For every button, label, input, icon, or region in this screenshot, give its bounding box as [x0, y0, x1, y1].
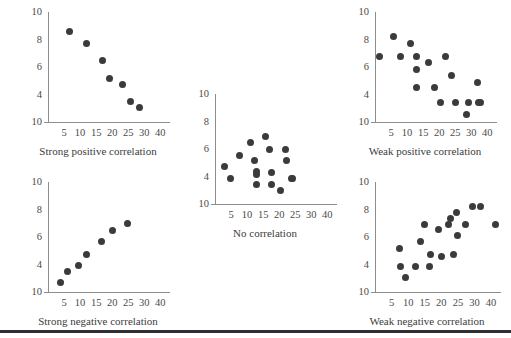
y-tick-label: 10 — [20, 117, 42, 128]
scatter-point — [425, 59, 432, 66]
scatter-point — [99, 57, 106, 64]
scatter-point — [469, 203, 476, 210]
x-tick-label: 40 — [149, 128, 171, 139]
y-tick-label: 6 — [187, 144, 209, 155]
scatter-point — [421, 221, 428, 228]
scatter-point — [64, 268, 71, 275]
scatter-plot-figure: 10864105101520253040Strong positive corr… — [0, 0, 511, 338]
scatter-point — [127, 98, 134, 105]
x-axis-line — [48, 122, 170, 123]
scatter-panel-strong-positive: 10864105101520253040Strong positive corr… — [18, 8, 200, 178]
scatter-point — [98, 238, 105, 245]
scatter-point — [407, 40, 414, 47]
y-tick-label: 6 — [20, 232, 42, 243]
panel-caption-weak-positive: Weak positive correlation — [347, 146, 503, 157]
scatter-point — [402, 274, 409, 281]
scatter-point — [75, 262, 82, 269]
x-axis-line — [48, 292, 170, 293]
y-tick-label: 10 — [347, 7, 369, 18]
y-tick-label: 6 — [347, 62, 369, 73]
scatter-point — [447, 215, 454, 222]
y-tick-label: 6 — [347, 232, 369, 243]
x-axis-line — [215, 204, 337, 205]
x-tick-label: 40 — [316, 210, 338, 221]
y-tick-label: 10 — [20, 177, 42, 188]
scatter-point — [136, 104, 143, 111]
scatter-panel-strong-negative: 10864105101520253040Strong negative corr… — [18, 178, 200, 338]
scatter-point — [442, 53, 449, 60]
panel-caption-no-correlation: No correlation — [187, 228, 343, 239]
y-tick-label: 4 — [347, 90, 369, 101]
scatter-point — [289, 175, 296, 182]
scatter-point — [251, 157, 258, 164]
y-tick-label: 4 — [347, 260, 369, 271]
bottom-divider-rule — [0, 330, 511, 333]
scatter-point — [253, 171, 260, 178]
origin-tick-mark — [371, 292, 375, 293]
y-axis-line — [48, 182, 49, 292]
y-tick-label: 10 — [347, 177, 369, 188]
y-tick-label: 10 — [347, 287, 369, 298]
origin-tick-mark — [44, 122, 48, 123]
scatter-point — [427, 251, 434, 258]
y-tick-label: 8 — [20, 205, 42, 216]
scatter-point — [376, 53, 383, 60]
scatter-point — [397, 53, 404, 60]
scatter-point — [448, 72, 455, 79]
x-tick-label: 40 — [476, 128, 498, 139]
y-tick-label: 10 — [20, 287, 42, 298]
panel-caption-weak-negative: Weak negative correlation — [347, 316, 507, 327]
origin-tick-mark — [211, 204, 215, 205]
scatter-panel-no-correlation: 10864105101520253040No correlation — [185, 90, 367, 260]
scatter-point — [236, 152, 243, 159]
scatter-point — [124, 220, 131, 227]
scatter-point — [262, 133, 269, 140]
scatter-point — [438, 253, 445, 260]
y-tick-label: 8 — [347, 205, 369, 216]
x-tick-label: 40 — [480, 298, 502, 309]
scatter-point — [474, 79, 481, 86]
y-tick-label: 4 — [20, 90, 42, 101]
scatter-panel-weak-positive: 10864105101520253040Weak positive correl… — [345, 8, 511, 178]
scatter-point — [450, 251, 457, 258]
scatter-panel-weak-negative: 10864105101520253040Weak negative correl… — [345, 178, 511, 338]
x-tick-label: 40 — [149, 298, 171, 309]
scatter-point — [413, 66, 420, 73]
scatter-point — [413, 53, 420, 60]
scatter-point — [413, 84, 420, 91]
scatter-point — [227, 175, 234, 182]
scatter-point — [477, 203, 484, 210]
scatter-point — [268, 169, 275, 176]
scatter-point — [83, 251, 90, 258]
scatter-point — [426, 263, 433, 270]
scatter-point — [266, 146, 273, 153]
scatter-point — [57, 279, 64, 286]
y-tick-label: 8 — [347, 35, 369, 46]
y-tick-label: 10 — [347, 117, 369, 128]
scatter-point — [463, 111, 470, 118]
scatter-point — [83, 40, 90, 47]
y-tick-label: 8 — [20, 35, 42, 46]
panel-caption-strong-negative: Strong negative correlation — [20, 316, 176, 327]
scatter-point — [109, 227, 116, 234]
scatter-point — [283, 157, 290, 164]
x-axis-line — [375, 292, 501, 293]
scatter-point — [247, 139, 254, 146]
y-axis-line — [375, 182, 376, 292]
scatter-point — [453, 209, 460, 216]
y-tick-label: 6 — [20, 62, 42, 73]
y-axis-line — [375, 12, 376, 122]
scatter-point — [465, 99, 472, 106]
scatter-point — [445, 221, 452, 228]
scatter-point — [492, 221, 499, 228]
scatter-point — [397, 263, 404, 270]
scatter-point — [462, 221, 469, 228]
origin-tick-mark — [371, 122, 375, 123]
y-axis-line — [215, 94, 216, 204]
scatter-point — [431, 84, 438, 91]
scatter-point — [390, 33, 397, 40]
scatter-point — [282, 146, 289, 153]
scatter-point — [435, 226, 442, 233]
scatter-point — [268, 181, 275, 188]
scatter-point — [221, 163, 228, 170]
